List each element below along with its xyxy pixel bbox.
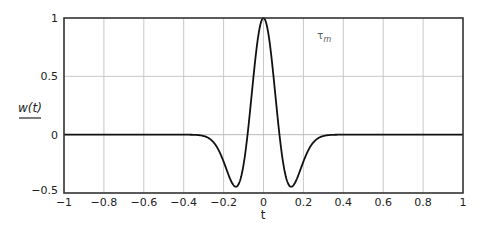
x-tick-label: −1 xyxy=(56,196,72,209)
y-tick-label: 1 xyxy=(51,12,58,25)
x-tick-label: −0.6 xyxy=(130,196,157,209)
y-tick-label: −0.5 xyxy=(31,184,58,197)
x-tick-label: −0.8 xyxy=(91,196,118,209)
x-tick-label: −0.2 xyxy=(210,196,237,209)
y-tick-label: 0.5 xyxy=(41,70,59,83)
x-axis-label: t xyxy=(261,208,266,222)
x-tick-label: 0.4 xyxy=(335,196,353,209)
annotations: τm xyxy=(317,30,331,44)
y-tick-label: 0 xyxy=(51,129,58,142)
x-tick-label: 1 xyxy=(460,196,467,209)
y-axis-label: w(t) xyxy=(18,101,42,115)
x-tick-label: 0.2 xyxy=(295,196,313,209)
tau-m-annotation: τm xyxy=(317,30,331,44)
x-tick-label: 0.6 xyxy=(374,196,392,209)
grid-lines xyxy=(64,18,463,193)
chart: −1−0.8−0.6−0.4−0.200.20.40.60.81 −0.500.… xyxy=(0,0,482,230)
x-tick-label: 0.8 xyxy=(414,196,432,209)
x-tick-label: −0.4 xyxy=(170,196,197,209)
